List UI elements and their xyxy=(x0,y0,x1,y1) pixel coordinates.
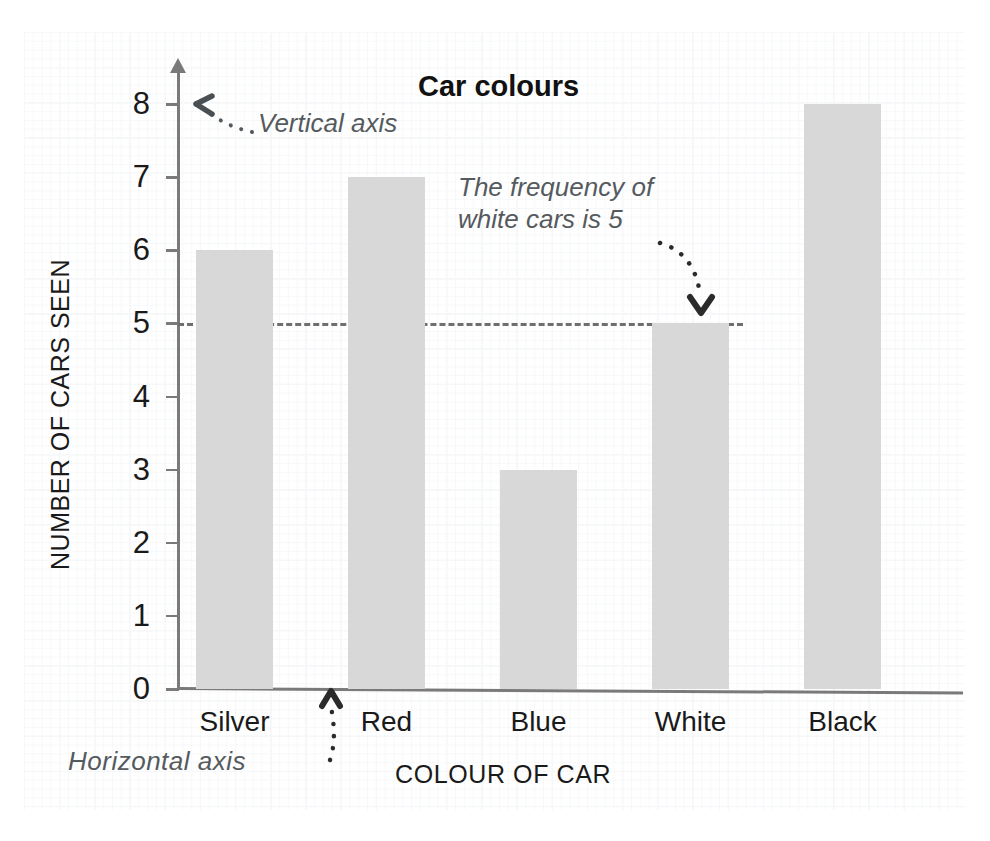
y-tick-mark xyxy=(166,103,179,106)
y-tick-label: 2 xyxy=(108,527,150,558)
annotation-frequency-note: The frequency of white cars is 5 xyxy=(458,172,718,235)
chart-title: Car colours xyxy=(418,70,579,103)
y-tick-mark xyxy=(166,469,179,472)
y-tick-label: 7 xyxy=(108,161,150,192)
chart-canvas: Car colours 876543210 SilverRedBlueWhite… xyxy=(0,0,990,841)
category-label-blue: Blue xyxy=(464,706,613,738)
y-tick-mark xyxy=(166,688,179,691)
category-label-silver: Silver xyxy=(160,706,309,738)
y-axis-title: NUMBER OF CARS SEEN xyxy=(46,250,75,580)
category-label-red: Red xyxy=(312,706,461,738)
y-tick-mark xyxy=(166,176,179,179)
y-tick-label: 4 xyxy=(108,381,150,412)
y-tick-mark xyxy=(166,396,179,399)
category-label-black: Black xyxy=(768,706,917,738)
y-tick-mark xyxy=(166,249,179,252)
y-tick-label: 6 xyxy=(108,234,150,265)
y-tick-label: 8 xyxy=(108,88,150,119)
bar-white xyxy=(652,323,729,689)
bar-red xyxy=(348,177,425,689)
vertical-axis-arrow-icon xyxy=(170,58,186,73)
bar-silver xyxy=(196,250,273,689)
annotation-vertical-axis: Vertical axis xyxy=(258,108,438,140)
bar-black xyxy=(804,104,881,689)
y-tick-mark xyxy=(166,615,179,618)
vertical-axis-line xyxy=(177,68,180,690)
y-tick-label: 0 xyxy=(108,673,150,704)
annotation-horizontal-axis: Horizontal axis xyxy=(68,746,368,778)
y-tick-label: 1 xyxy=(108,600,150,631)
y-tick-label: 5 xyxy=(108,307,150,338)
x-axis-title: COLOUR OF CAR xyxy=(395,760,611,789)
bar-blue xyxy=(500,470,577,689)
category-label-white: White xyxy=(616,706,765,738)
y-tick-label: 3 xyxy=(108,454,150,485)
y-tick-mark xyxy=(166,542,179,545)
